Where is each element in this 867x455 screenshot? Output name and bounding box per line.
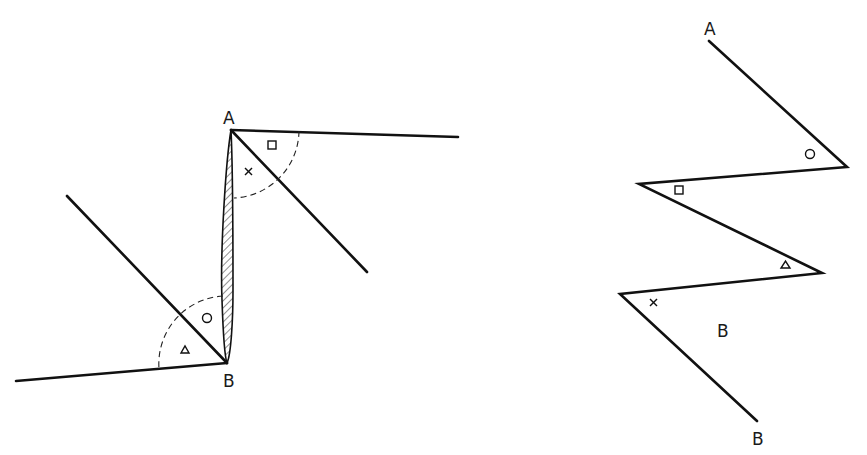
label-a: A <box>223 108 235 128</box>
label-a: A <box>704 19 716 39</box>
zigzag-path <box>620 41 847 421</box>
circle-mark-icon <box>806 150 815 159</box>
diagram-canvas: A B A B B <box>0 0 867 455</box>
square-mark-icon <box>268 141 276 149</box>
angle-arc-a <box>234 131 299 198</box>
cross-mark-icon <box>650 299 657 306</box>
line-a-right <box>231 130 458 137</box>
hatched-segment <box>222 130 233 363</box>
label-b: B <box>223 371 235 391</box>
triangle-mark-icon <box>781 261 790 268</box>
label-b-middle: B <box>717 321 729 341</box>
line-b-left <box>16 363 227 381</box>
left-figure: A B <box>16 108 458 391</box>
square-mark-icon <box>675 186 683 194</box>
line-diagonal-b <box>67 196 227 363</box>
angle-arc-b <box>159 296 223 369</box>
label-b-bottom: B <box>752 429 764 449</box>
triangle-mark-icon <box>181 346 189 353</box>
circle-mark-icon <box>203 314 212 323</box>
cross-mark-icon <box>245 168 252 175</box>
right-figure: A B B <box>620 19 847 449</box>
line-a-diagonal <box>231 130 367 272</box>
